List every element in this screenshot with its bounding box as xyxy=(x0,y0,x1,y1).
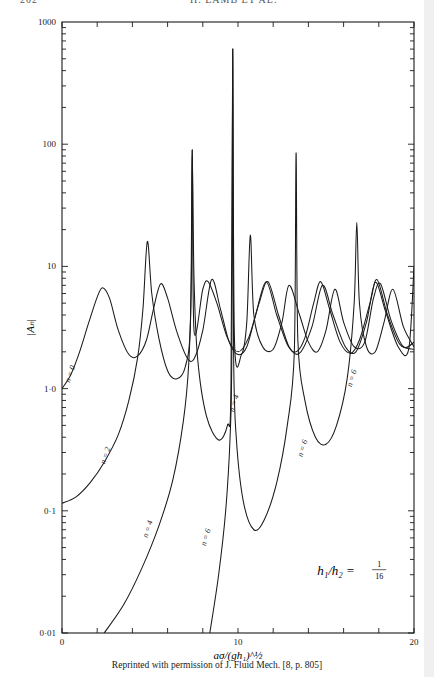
y-tick-label: 1·0 xyxy=(44,384,56,394)
curve-label: n = 6 xyxy=(345,368,359,387)
curve-label: n = 4 xyxy=(141,519,155,538)
y-tick-label: 1000 xyxy=(38,17,57,27)
figure-caption: Reprinted with permission of J. Fluid Me… xyxy=(0,660,434,670)
plot-border xyxy=(62,22,414,633)
y-tick-label: 0·01 xyxy=(40,628,57,638)
curve-label: n = 6 xyxy=(199,527,213,546)
curves xyxy=(62,49,414,633)
curve-n4 xyxy=(104,49,414,633)
curve-n0 xyxy=(62,279,414,388)
x-tick-label: 10 xyxy=(234,637,244,647)
x-tick-label: 20 xyxy=(410,637,420,647)
amplitude-chart: n = 0n = 2n = 4n = 6n = 4n = 6n = 6 0·01… xyxy=(0,0,434,677)
ratio-numerator: 1 xyxy=(377,560,381,569)
curve-n6 xyxy=(210,49,414,633)
y-tick-label: 10 xyxy=(47,261,57,271)
axis-ticks xyxy=(62,22,414,633)
plot-frame xyxy=(62,22,414,633)
y-tick-label: 100 xyxy=(43,139,57,149)
curve-n2 xyxy=(62,150,414,504)
curve-label: n = 2 xyxy=(98,446,112,465)
x-tick-label: 0 xyxy=(60,637,65,647)
ratio-denominator: 16 xyxy=(375,572,383,581)
curve-label: n = 6 xyxy=(296,439,310,458)
ratio-annotation: h₁/h₂ = xyxy=(317,563,355,578)
y-tick-label: 0·1 xyxy=(44,506,56,516)
y-axis-label: |Aₙ| xyxy=(24,319,36,336)
curve-label: n = 4 xyxy=(227,393,241,412)
page-edge xyxy=(424,0,434,677)
curve-label: n = 0 xyxy=(63,364,77,383)
curve-labels: n = 0n = 2n = 4n = 6n = 4n = 6n = 6 xyxy=(63,364,359,547)
